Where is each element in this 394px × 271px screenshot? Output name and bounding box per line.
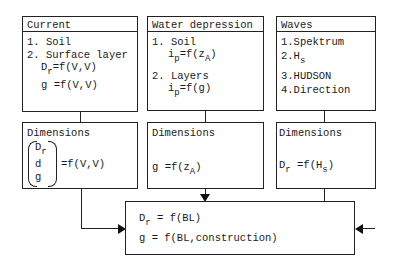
- waves-item-spektrum: 1.Spektrum: [281, 36, 344, 48]
- current-box: Current 1. Soil 2. Surface layer Dr=f(V,…: [22, 16, 138, 112]
- vector-d: d: [35, 158, 41, 170]
- result-eq-dr: Dr = f(BL): [139, 212, 201, 229]
- current-dimensions-title: Dimensions: [27, 127, 90, 139]
- result-box: Dr = f(BL) g = f(BL,construction): [125, 201, 355, 255]
- waves-box: Waves 1.Spektrum 2.Hs 3.HUDSON 4.Directi…: [276, 16, 376, 111]
- waves-item-hudson: 3.HUDSON: [281, 70, 331, 82]
- current-eq-g: g =f(V,V): [41, 79, 98, 91]
- water-dimensions-eq: g =f(zA): [152, 161, 202, 178]
- waves-title: Waves: [277, 17, 375, 32]
- water-item-soil: 1. Soil: [152, 36, 196, 48]
- connector: [80, 112, 81, 122]
- current-item-surface-layer: 2. Surface layer: [27, 49, 128, 61]
- water-item-layers: 2. Layers: [152, 70, 209, 82]
- water-depression-box: Water depression 1. Soil ip=f(zA) 2. Lay…: [147, 16, 264, 111]
- water-dimensions-box: Dimensions g =f(zA): [147, 122, 264, 189]
- water-eq-ip-za: ip=f(zA): [168, 48, 217, 65]
- connector-left-across: [81, 228, 119, 229]
- right-paren: [48, 141, 57, 187]
- current-dimensions-box: Dimensions Dr d g =f(V,V): [22, 122, 138, 189]
- vector-g: g: [35, 171, 41, 183]
- current-dimensions-rhs: =f(V,V): [61, 158, 105, 170]
- waves-item-hs: 2.Hs: [281, 50, 305, 67]
- vector-dr: Dr: [35, 141, 47, 158]
- waves-dimensions-eq: Dr =f(Hs): [279, 159, 334, 176]
- current-eq-dr: Dr=f(V,V): [41, 61, 97, 78]
- current-title: Current: [23, 17, 137, 32]
- current-item-soil: 1. Soil: [27, 36, 71, 48]
- waves-dimensions-box: Dimensions Dr =f(Hs): [276, 122, 376, 189]
- result-eq-g: g = f(BL,construction): [139, 232, 278, 244]
- connector: [205, 111, 206, 122]
- connector: [324, 111, 325, 122]
- connector-left-down: [81, 189, 82, 229]
- waves-item-direction: 4.Direction: [281, 84, 350, 96]
- water-eq-ip-g: ip=f(g): [168, 82, 211, 99]
- waves-dimensions-title: Dimensions: [279, 127, 342, 139]
- water-dimensions-title: Dimensions: [152, 127, 215, 139]
- water-depression-title: Water depression: [148, 17, 263, 32]
- connector-right-tail: [362, 228, 375, 229]
